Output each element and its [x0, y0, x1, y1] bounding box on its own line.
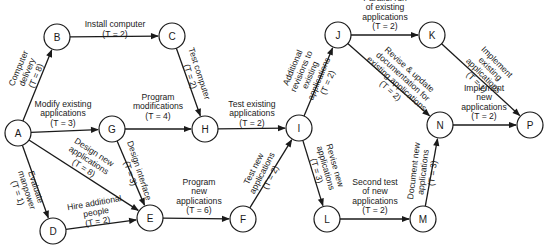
- edge-label-e-f: Programnewapplications(T = 6): [176, 177, 221, 216]
- node-k: K: [419, 22, 445, 48]
- edge-label-g-e: Design interface(T = 3): [116, 139, 154, 204]
- node-n: N: [427, 112, 453, 138]
- node-f: F: [230, 206, 256, 232]
- edge-label-n-p: Implementnewapplications(T = 2): [461, 83, 506, 122]
- edge-label-i-l: Revise newapplications(T = 3): [306, 142, 346, 194]
- node-label: N: [436, 120, 443, 131]
- node-label: H: [201, 124, 208, 135]
- edge-label-line: new: [191, 186, 208, 196]
- node-a: A: [5, 120, 31, 146]
- edge-label-line: applications: [176, 196, 221, 206]
- node-i: I: [286, 115, 312, 141]
- edge-label-line: Implement: [464, 83, 505, 93]
- node-label: M: [419, 214, 427, 225]
- edge-label-line: (T = 3): [426, 160, 439, 187]
- edge-label-line: (T = 4): [145, 111, 171, 121]
- edge-label-line: (T = 2): [372, 21, 398, 31]
- edge-label-line: Second test: [352, 177, 398, 187]
- node-l: L: [314, 206, 340, 232]
- edge-label-a-g: Modify existingapplications(T = 3): [35, 99, 92, 128]
- edge-label-line: (T = 3): [50, 118, 76, 128]
- edge-label-a-b: Computerdelivery(T = 8): [6, 49, 47, 95]
- edge-label-line: modifications: [133, 101, 183, 111]
- network-canvas: Computerdelivery(T = 8)Install computer(…: [0, 0, 551, 247]
- edge-label-line: applications: [461, 102, 506, 112]
- edge-label-line: Modify existing: [35, 99, 92, 109]
- edge-label-line: Program: [142, 92, 175, 102]
- project-network-diagram: Computerdelivery(T = 8)Install computer(…: [0, 0, 551, 247]
- edge-label-line: applications: [40, 108, 85, 118]
- edge-a-g: [31, 130, 98, 133]
- edge-label-a-d: Evaluatemanpower(T = 1): [7, 166, 47, 213]
- node-label: D: [49, 226, 56, 237]
- edge-label-line: applications: [362, 12, 407, 22]
- node-m: M: [410, 206, 436, 232]
- edge-label-line: new: [476, 92, 493, 102]
- edge-label-line: Test existing: [228, 99, 276, 109]
- edge-label-line: (T = 6): [186, 205, 212, 215]
- node-label: J: [336, 30, 341, 41]
- node-b: B: [44, 24, 70, 50]
- node-j: J: [325, 22, 351, 48]
- node-h: H: [192, 116, 218, 142]
- edge-label-g-h: Programmodifications(T = 4): [133, 92, 183, 121]
- edge-label-h-i: Test existingapplications(T = 2): [228, 99, 276, 128]
- edge-label-a-e: Design newapplications(T = 8): [62, 135, 116, 184]
- edge-label-line: applications: [352, 196, 397, 206]
- node-e: E: [137, 205, 163, 231]
- node-p: P: [517, 112, 543, 138]
- node-c: C: [159, 23, 185, 49]
- edge-label-j-k: Parallel runof existingapplications(T = …: [362, 0, 407, 31]
- edge-label-i-j: Additionalrevisions toexistingapplicatio…: [279, 45, 341, 106]
- edge-label-d-e: Hire additionalpeople(T = 2): [66, 193, 125, 231]
- node-label: I: [298, 123, 301, 134]
- node-label: F: [240, 214, 246, 225]
- edge-label-line: Install computer: [85, 19, 146, 29]
- edge-label-f-i: Test newapplications(T = 2): [239, 146, 285, 200]
- edge-label-line: (T = 2): [102, 29, 128, 39]
- node-d: D: [40, 218, 66, 244]
- node-label: L: [324, 214, 330, 225]
- edge-label-line: Program: [183, 177, 216, 187]
- edge-h-i: [218, 128, 285, 129]
- edge-label-line: (T = 2): [362, 205, 388, 215]
- edge-label-j-n: Revise & updatedocumentation forexisting…: [359, 40, 442, 120]
- edge-label-line: applications: [229, 108, 274, 118]
- edge-label-line: (T = 2): [471, 111, 497, 121]
- edge-label-line: of existing: [366, 2, 405, 12]
- edge-label-line: (T = 2): [239, 118, 265, 128]
- node-label: B: [54, 32, 61, 43]
- node-label: K: [429, 30, 436, 41]
- edge-e-f: [163, 218, 229, 219]
- node-label: G: [108, 124, 116, 135]
- edge-label-line: of new: [362, 186, 388, 196]
- edge-label-l-m: Second testof newapplications(T = 2): [352, 177, 398, 216]
- node-label: P: [527, 120, 534, 131]
- node-g: G: [99, 116, 125, 142]
- edge-label-c-h: Test computer(T = 2): [177, 46, 212, 103]
- node-label: E: [147, 213, 154, 224]
- node-label: C: [168, 31, 175, 42]
- node-label: A: [15, 128, 22, 139]
